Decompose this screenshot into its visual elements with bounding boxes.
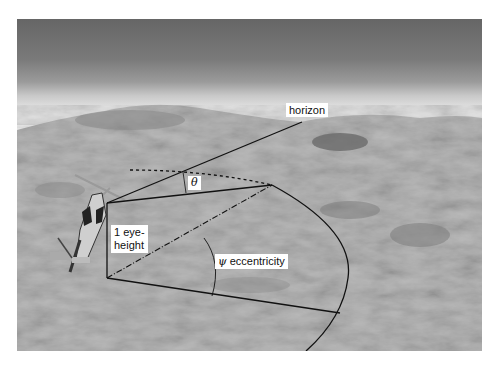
- terrain-scene: [17, 19, 482, 351]
- sky: [17, 19, 482, 109]
- eye-height-label-line1: 1 eye-: [114, 226, 145, 239]
- horizon-label: horizon: [286, 103, 328, 117]
- scene-graphic: [17, 19, 482, 351]
- eccentricity-label: ψ eccentricity: [215, 254, 288, 269]
- eye-height-label-line2: height: [114, 239, 145, 252]
- theta-label: θ: [188, 176, 201, 190]
- psi-symbol: ψ: [218, 255, 227, 268]
- eye-height-label: 1 eye- height: [111, 225, 148, 253]
- eccentricity-text: eccentricity: [230, 255, 285, 267]
